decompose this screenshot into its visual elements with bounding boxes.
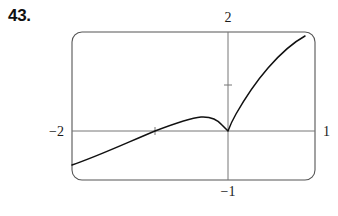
axis-label-bottom: −1 (221, 184, 236, 199)
function-curve (72, 36, 305, 165)
axis-label-left: −2 (49, 124, 64, 139)
graph-figure: 2 −2 1 −1 (0, 0, 338, 216)
axis-label-top: 2 (225, 10, 232, 25)
axis-label-right: 1 (323, 124, 330, 139)
plot-frame (72, 32, 315, 180)
figure-screenshot: 43. 2 −2 1 −1 (0, 0, 338, 216)
